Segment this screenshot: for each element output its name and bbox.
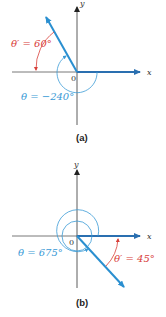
y-axis-label: y (73, 160, 79, 169)
caption-b: (b) (76, 297, 88, 308)
theta-label: θ = −240° (21, 91, 74, 102)
reference-angle-label: θ′ = 60° (11, 38, 52, 49)
origin-label: 0 (71, 74, 76, 83)
reference-angle-label: θ′ = 45° (114, 253, 155, 264)
panel-b: x y 0 θ′ = 45° θ = 675° (b) (12, 160, 155, 308)
x-axis-label: x (147, 232, 152, 241)
origin-label: 0 (69, 238, 74, 247)
x-axis-label: x (147, 68, 152, 77)
y-axis-label: y (79, 0, 85, 8)
theta-label: θ = 675° (18, 247, 63, 258)
caption-a: (a) (76, 132, 88, 143)
reference-angle-diagram: x y 0 θ′ = 60° θ = −240° (a) x y 0 θ′ = … (0, 0, 166, 317)
panel-a: x y 0 θ′ = 60° θ = −240° (a) (11, 0, 152, 143)
